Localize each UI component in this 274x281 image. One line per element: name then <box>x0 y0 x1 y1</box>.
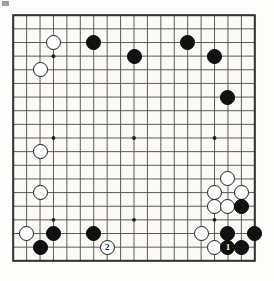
go-stone-move-label: 2 <box>101 241 114 254</box>
go-stone-white-move-2[interactable]: 2 <box>100 240 115 255</box>
go-stone-white[interactable] <box>33 144 48 159</box>
diagram-page: 21 <box>0 0 274 281</box>
go-stone-black[interactable] <box>33 240 48 255</box>
go-stone-move-label: 1 <box>221 241 234 254</box>
go-stone-white[interactable] <box>234 185 249 200</box>
go-stone-black[interactable] <box>207 49 222 64</box>
go-stone-black[interactable] <box>220 90 235 105</box>
scan-artifact-mark <box>2 1 9 6</box>
go-stone-black[interactable] <box>234 240 249 255</box>
go-stone-white[interactable] <box>33 185 48 200</box>
go-stone-white[interactable] <box>33 62 48 77</box>
go-stone-black[interactable] <box>46 226 61 241</box>
go-stone-white[interactable] <box>207 185 222 200</box>
go-board[interactable]: 21 <box>11 13 257 263</box>
go-stone-black[interactable] <box>127 49 142 64</box>
go-stone-black[interactable] <box>234 199 249 214</box>
go-stone-white[interactable] <box>194 226 209 241</box>
go-stone-black[interactable] <box>247 226 262 241</box>
go-stone-white[interactable] <box>46 35 61 50</box>
